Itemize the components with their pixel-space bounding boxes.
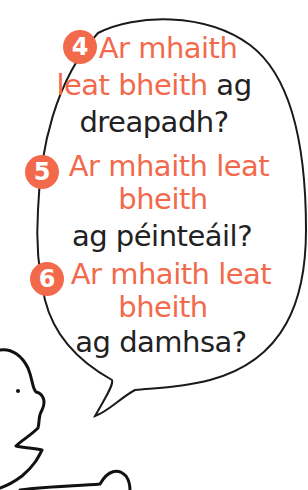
question-line: bheith bbox=[0, 291, 308, 324]
character-eye bbox=[16, 389, 20, 393]
question-text-highlight: leat bheith bbox=[56, 68, 207, 102]
question-text-highlight: Ar mhaith leat bbox=[71, 257, 271, 291]
question-text: dreapadh? bbox=[79, 105, 228, 139]
character-hand-outline bbox=[20, 471, 130, 490]
question-line: dreapadh? bbox=[0, 106, 308, 139]
question-text: ag péinteáil? bbox=[72, 219, 252, 253]
question-line: leat bheith ag bbox=[0, 69, 308, 102]
question-line: bheith bbox=[0, 183, 308, 216]
question-text-highlight: bheith bbox=[118, 182, 207, 216]
character-face-outline bbox=[0, 350, 44, 488]
question-text-highlight: Ar mhaith bbox=[99, 31, 238, 65]
question-text-highlight: Ar mhaith leat bbox=[69, 149, 269, 183]
question-line: ag péinteáil? bbox=[0, 220, 308, 253]
question-text-highlight: bheith bbox=[118, 290, 207, 324]
question-line: Ar mhaith leat bbox=[0, 258, 308, 291]
question-text: ag damhsa? bbox=[75, 325, 246, 359]
question-text: ag bbox=[208, 68, 252, 102]
question-line: ag damhsa? bbox=[0, 326, 308, 359]
question-line: Ar mhaith bbox=[0, 32, 308, 65]
question-line: Ar mhaith leat bbox=[0, 150, 308, 183]
